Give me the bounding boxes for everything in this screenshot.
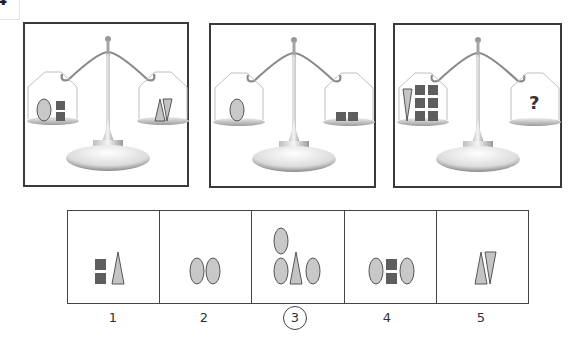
oval-shape xyxy=(190,258,204,284)
triangle-up-shape xyxy=(112,252,124,284)
right-pan-contents: ? xyxy=(529,92,539,113)
square-shape xyxy=(56,101,65,110)
square-shape xyxy=(95,259,106,270)
scale-panel-3: ? xyxy=(393,23,562,188)
square-shape xyxy=(415,85,425,95)
question-mark: ? xyxy=(529,92,539,113)
option-label-5: 5 xyxy=(435,310,527,325)
triangle-down-shape xyxy=(403,89,412,121)
option-2[interactable] xyxy=(160,211,252,303)
oval-shape xyxy=(274,228,288,254)
square-shape xyxy=(56,112,65,121)
oval-shape xyxy=(274,258,288,284)
triangle-up-shape xyxy=(290,252,302,284)
option-4[interactable] xyxy=(345,211,437,303)
problem-number: 4 xyxy=(0,0,7,9)
triangle-up-shape xyxy=(475,252,487,284)
option-label-3: 3 xyxy=(249,310,341,330)
selected-answer-circle: 3 xyxy=(283,306,307,330)
square-shape xyxy=(386,259,397,270)
oval-shape xyxy=(400,258,414,284)
square-shape xyxy=(95,273,106,284)
square-shape xyxy=(415,111,425,121)
option-label-4: 4 xyxy=(341,310,433,325)
option-5[interactable] xyxy=(437,211,528,303)
oval-shape xyxy=(306,258,320,284)
option-3[interactable] xyxy=(252,211,344,303)
square-shape xyxy=(415,98,425,108)
option-label-2: 2 xyxy=(158,310,250,325)
square-shape xyxy=(428,98,438,108)
square-shape xyxy=(428,85,438,95)
scale-panel-1 xyxy=(23,22,189,187)
square-shape xyxy=(336,112,346,121)
answer-options xyxy=(67,210,529,304)
option-label-1: 1 xyxy=(67,310,159,325)
oval-shape xyxy=(37,99,51,121)
square-shape xyxy=(348,112,358,121)
scale-panel-2 xyxy=(209,23,376,188)
oval-shape xyxy=(369,258,383,284)
square-shape xyxy=(428,111,438,121)
square-shape xyxy=(386,273,397,284)
oval-shape xyxy=(206,258,220,284)
oval-shape xyxy=(230,99,244,121)
left-pan-contents xyxy=(230,99,244,121)
triangle-down-shape xyxy=(485,252,496,284)
option-1[interactable] xyxy=(68,211,160,303)
left-pan-contents xyxy=(403,85,438,121)
